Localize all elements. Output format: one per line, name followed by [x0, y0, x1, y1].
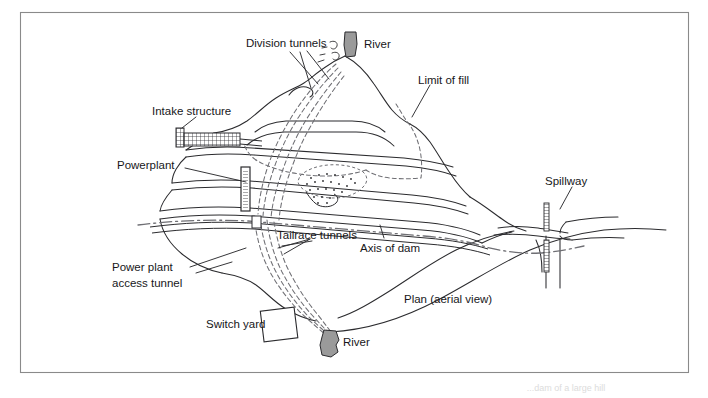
label-limit-of-fill: Limit of fill — [418, 74, 469, 86]
label-division-tunnels: Division tunnels — [246, 37, 327, 49]
label-powerplant: Powerplant — [117, 159, 175, 171]
label-intake-structure: Intake structure — [152, 105, 231, 117]
bottom-caption: ...dam of a large hill — [527, 383, 606, 393]
label-access-tunnel-line2: access tunnel — [112, 277, 182, 289]
river-top-shape — [344, 32, 357, 57]
label-river-top: River — [364, 38, 391, 50]
diagram-figure: Division tunnels River Limit of fill Int… — [0, 0, 708, 398]
powerplant-hatch — [243, 169, 248, 209]
label-switch-yard: Switch yard — [206, 318, 265, 330]
dam-plan-svg: Division tunnels River Limit of fill Int… — [0, 0, 708, 398]
label-tailrace-tunnels: Tailrace tunnels — [277, 229, 357, 241]
label-plan-aerial-view: Plan (aerial view) — [404, 293, 492, 305]
label-axis-of-dam: Axis of dam — [360, 242, 420, 254]
river-bottom-shape — [320, 330, 339, 357]
switch-yard-box — [260, 307, 298, 342]
label-river-bottom: River — [343, 336, 370, 348]
label-access-tunnel-line1: Power plant — [112, 261, 174, 273]
label-spillway: Spillway — [545, 175, 587, 187]
spillway-crest-upper — [544, 203, 549, 231]
spillway-chute-lower — [544, 240, 549, 272]
intake-tower — [176, 128, 184, 147]
powerplant-lower-block — [252, 216, 261, 228]
intake-conduit — [184, 133, 240, 146]
